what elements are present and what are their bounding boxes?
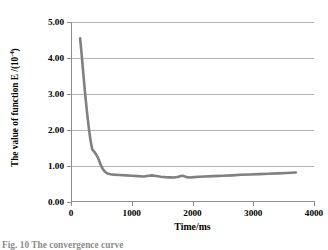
x-tick-label: 3000: [244, 208, 262, 218]
plot-area: 0.001.002.003.004.005.00 010002000300040…: [71, 22, 314, 202]
y-tick-label: 4.00: [48, 53, 64, 63]
y-tick-label: 3.00: [48, 89, 64, 99]
y-tick-label: 2.00: [48, 125, 64, 135]
x-tick-label: 0: [69, 208, 74, 218]
x-tick-mark: [314, 201, 315, 206]
x-tick-label: 4000: [305, 208, 323, 218]
y-axis-title: The value of function E /(10-4): [10, 48, 19, 167]
x-tick-label: 1000: [123, 208, 141, 218]
figure-caption: Fig. 10 The convergence curve: [2, 240, 123, 250]
y-axis-title-wrapper: The value of function E /(10-4): [0, 0, 30, 215]
y-tick-label: 5.00: [48, 17, 64, 27]
y-axis-title-tail: ): [9, 48, 19, 51]
x-tick-label: 2000: [183, 208, 201, 218]
series-line-function-e: [71, 22, 314, 202]
y-tick-label: 0.00: [48, 197, 64, 207]
x-axis-title: Time/ms: [71, 221, 314, 232]
y-axis-title-text: The value of function E /(10: [9, 57, 19, 167]
y-axis-title-exponent: -4: [7, 51, 14, 56]
figure-container: The value of function E /(10-4) 0.001.00…: [0, 0, 328, 250]
y-tick-label: 1.00: [48, 161, 64, 171]
